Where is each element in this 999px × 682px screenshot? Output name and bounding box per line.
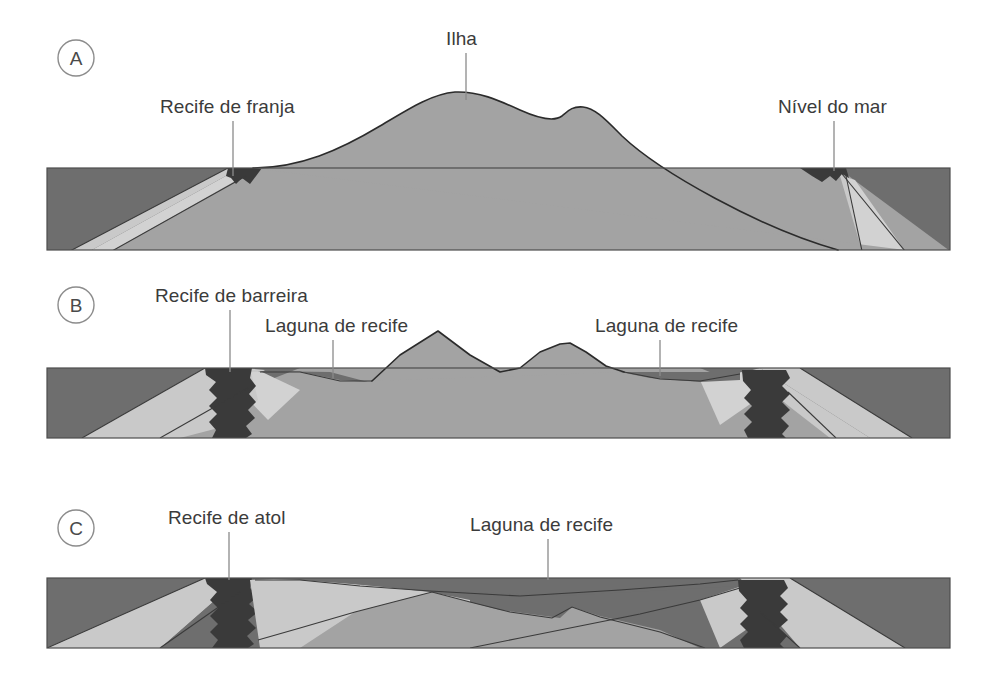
- label-ilha: Ilha: [446, 28, 477, 49]
- label-recife-de-atol: Recife de atol: [168, 507, 286, 528]
- label-laguna-de-recife-b-left: Laguna de recife: [265, 315, 408, 336]
- panel-letter-b: B: [70, 295, 83, 316]
- reef-formation-figure: A Recife de franja Ilha Nível do mar: [0, 0, 999, 682]
- label-laguna-de-recife-b-right: Laguna de recife: [595, 315, 738, 336]
- label-laguna-de-recife-c: Laguna de recife: [470, 514, 613, 535]
- panel-letter-c: C: [69, 518, 83, 539]
- label-nivel-do-mar: Nível do mar: [778, 96, 887, 117]
- label-recife-de-franja: Recife de franja: [160, 96, 295, 117]
- diagram-canvas: A Recife de franja Ilha Nível do mar: [0, 0, 999, 682]
- label-recife-de-barreira: Recife de barreira: [155, 285, 308, 306]
- panel-letter-a: A: [70, 48, 83, 69]
